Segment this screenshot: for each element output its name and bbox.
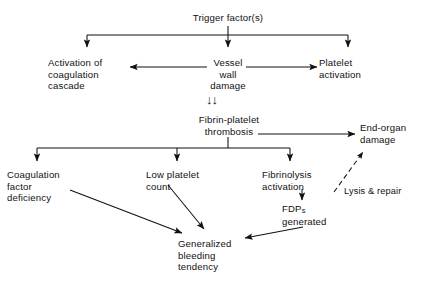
node-low-platelet-count: Low platelet count — [146, 169, 230, 192]
node-platelet-activation: Platelet activation — [319, 57, 391, 80]
node-activation-of-coagulation-cascade: Activation of coagulation cascade — [48, 57, 134, 92]
fdps-label-subscript: s — [302, 206, 306, 215]
down-arrow-mark-icon: ↓↓ — [206, 92, 217, 108]
edge-label-lysis-and-repair: Lysis & repair — [344, 186, 401, 197]
dic-flowchart-diagram: Trigger factor(s) Activation of coagulat… — [0, 0, 435, 283]
fdps-label-suffix: generated — [282, 216, 327, 227]
node-fdps-generated: FDPsgenerated — [282, 203, 352, 227]
node-trigger-factors: Trigger factor(s) — [168, 12, 288, 24]
fdps-label-prefix: FDP — [282, 203, 302, 214]
node-generalized-bleeding-tendency: Generalized bleeding tendency — [178, 238, 268, 273]
node-vessel-wall-damage: Vessel wall damage — [198, 57, 258, 92]
edge-fdps-to-bleeding — [245, 227, 303, 238]
node-coagulation-factor-deficiency: Coagulation factor deficiency — [7, 169, 87, 204]
node-fibrinolysis-activation: Fibrinolysis activation — [262, 169, 338, 192]
node-fibrin-platelet-thrombosis: Fibrin-platelet thrombosis — [170, 114, 288, 137]
node-end-organ-damage: End-organ damage — [360, 122, 434, 145]
